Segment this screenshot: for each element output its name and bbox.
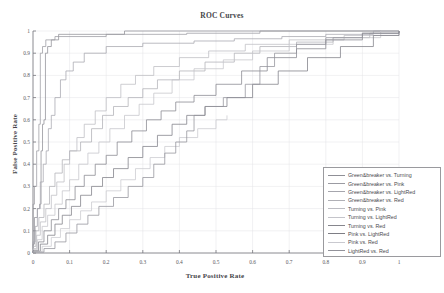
y-tick-label: 0 xyxy=(14,250,30,256)
legend-color-swatch xyxy=(328,191,345,192)
legend-item[interactable]: Pink vs. LightRed xyxy=(326,230,438,238)
x-tick-label: 1 xyxy=(398,259,401,265)
y-axis-label: False Positive Rate xyxy=(11,84,19,204)
legend-item[interactable]: Turning vs. Pink xyxy=(326,205,438,213)
legend-color-swatch xyxy=(328,200,345,201)
legend-item-label: Green&breaker vs. Pink xyxy=(348,180,404,188)
roc-curve-line xyxy=(33,115,227,253)
legend-color-swatch xyxy=(328,183,345,184)
legend-item[interactable]: LightRed vs. Red xyxy=(326,247,438,255)
x-tick-label: 0.9 xyxy=(359,259,366,265)
legend-item[interactable]: Green&breaker vs. LightRed xyxy=(326,188,438,196)
roc-curves-figure: ROC Curves 00.10.20.30.40.50.60.70.80.91… xyxy=(0,0,444,293)
x-tick-label: 0.3 xyxy=(139,259,146,265)
y-tick-label: 0.9 xyxy=(14,50,30,56)
x-tick-label: 0.4 xyxy=(176,259,183,265)
legend-item-label: Pink vs. LightRed xyxy=(348,230,389,238)
x-tick-label: 0 xyxy=(32,259,35,265)
y-tick-label: 1 xyxy=(14,28,30,34)
legend-color-swatch xyxy=(328,175,345,176)
legend-color-swatch xyxy=(328,242,345,243)
legend-item-label: Turning vs. LightRed xyxy=(348,213,397,221)
legend-color-swatch xyxy=(328,250,345,251)
legend-item-label: Green&breaker vs. Turning xyxy=(348,171,412,179)
legend-item-label: Green&breaker vs. Red xyxy=(348,196,404,204)
x-tick-label: 0.6 xyxy=(249,259,256,265)
chart-legend[interactable]: Green&breaker vs. TurningGreen&breaker v… xyxy=(323,167,441,257)
legend-item-label: Turning vs. Pink xyxy=(348,205,386,213)
legend-item-label: Pink vs. Red xyxy=(348,238,378,246)
x-tick-label: 0.2 xyxy=(103,259,110,265)
legend-item[interactable]: Pink vs. Red xyxy=(326,238,438,246)
legend-item[interactable]: Turning vs. Red xyxy=(326,221,438,229)
y-tick-label: 0.2 xyxy=(14,206,30,212)
legend-color-swatch xyxy=(328,233,345,234)
legend-item-label: Turning vs. Red xyxy=(348,222,385,230)
x-tick-label: 0.7 xyxy=(286,259,293,265)
legend-item-label: Green&breaker vs. LightRed xyxy=(348,188,415,196)
legend-item-label: LightRed vs. Red xyxy=(348,247,389,255)
x-tick-label: 0.5 xyxy=(213,259,220,265)
legend-item[interactable]: Green&breaker vs. Turning xyxy=(326,171,438,179)
legend-item[interactable]: Green&breaker vs. Red xyxy=(326,196,438,204)
legend-color-swatch xyxy=(328,208,345,209)
x-tick-label: 0.1 xyxy=(66,259,73,265)
x-tick-label: 0.8 xyxy=(322,259,329,265)
x-axis-label: True Positive Rate xyxy=(0,272,430,280)
legend-color-swatch xyxy=(328,225,345,226)
y-tick-label: 0.1 xyxy=(14,228,30,234)
legend-color-swatch xyxy=(328,217,345,218)
y-tick-label: 0.8 xyxy=(14,72,30,78)
legend-item[interactable]: Turning vs. LightRed xyxy=(326,213,438,221)
legend-item[interactable]: Green&breaker vs. Pink xyxy=(326,179,438,187)
